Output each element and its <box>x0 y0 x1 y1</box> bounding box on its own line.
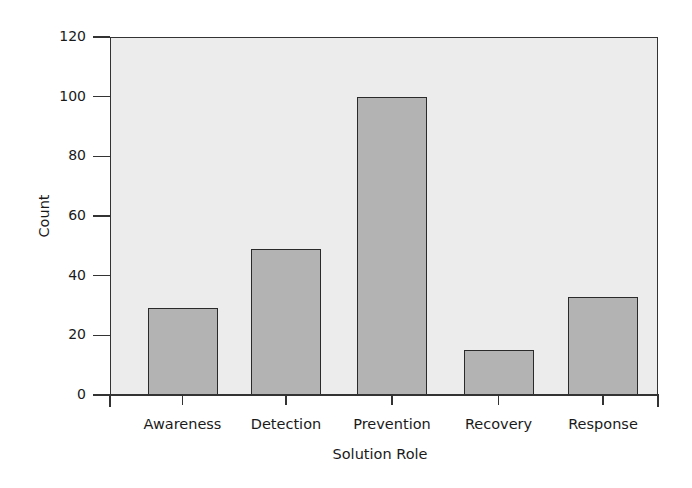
x-tick <box>285 395 287 405</box>
x-tick-label: Recovery <box>444 416 554 432</box>
x-tick <box>498 395 500 405</box>
y-tick <box>93 215 110 217</box>
y-tick-label: 80 <box>46 148 86 162</box>
y-tick <box>93 36 110 38</box>
y-tick <box>93 96 110 98</box>
y-tick <box>93 335 110 337</box>
x-tick-label: Response <box>548 416 658 432</box>
y-tick-label: 120 <box>46 29 86 43</box>
bar-recovery <box>464 350 534 395</box>
bar-response <box>568 297 638 395</box>
x-axis-start-tick <box>109 395 111 407</box>
x-tick <box>602 395 604 405</box>
x-tick-label: Prevention <box>337 416 447 432</box>
x-axis-line <box>93 394 659 396</box>
y-tick-label: 40 <box>46 268 86 282</box>
y-tick-label: 0 <box>46 387 86 401</box>
bar-prevention <box>357 97 427 395</box>
y-axis-title: Count <box>36 194 52 237</box>
y-tick <box>93 156 110 158</box>
y-tick <box>93 394 110 396</box>
x-axis-end-tick <box>657 395 659 407</box>
y-tick-label: 60 <box>46 208 86 222</box>
x-tick <box>391 395 393 405</box>
x-axis-title: Solution Role <box>280 446 480 462</box>
y-tick-label: 100 <box>46 89 86 103</box>
x-tick <box>182 395 184 405</box>
x-tick-label: Awareness <box>128 416 238 432</box>
bar-detection <box>251 249 321 395</box>
bar-awareness <box>148 308 218 395</box>
bar-chart: 020406080100120 AwarenessDetectionPreven… <box>0 0 692 488</box>
x-tick-label: Detection <box>231 416 341 432</box>
y-tick-label: 20 <box>46 327 86 341</box>
y-tick <box>93 275 110 277</box>
